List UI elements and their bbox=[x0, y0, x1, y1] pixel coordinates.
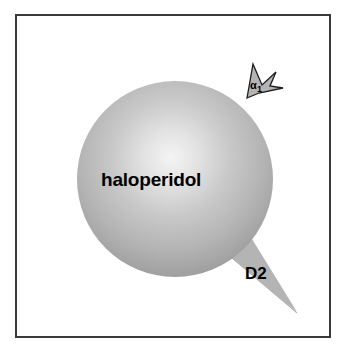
figure-canvas: haloperidol D2 α1 bbox=[0, 0, 347, 354]
receptor-label-alpha1: α1 bbox=[250, 80, 262, 94]
alpha-subscript: 1 bbox=[257, 84, 262, 94]
alpha-glyph: α bbox=[250, 79, 257, 91]
receptor-label-d2: D2 bbox=[245, 265, 267, 282]
drug-label: haloperidol bbox=[101, 170, 201, 189]
